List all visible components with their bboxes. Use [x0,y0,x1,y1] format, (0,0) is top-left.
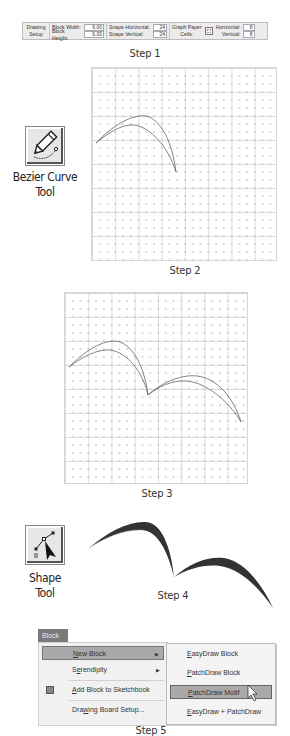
step5-caption: Step 5 [126,724,176,736]
mouse-cursor-icon [0,0,290,736]
